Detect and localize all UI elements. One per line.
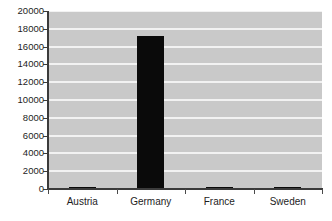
y-axis-tick-mark bbox=[43, 171, 48, 172]
y-axis-tick-label: 12000 bbox=[0, 77, 44, 87]
gridline bbox=[48, 170, 322, 172]
y-axis-tick-label: 8000 bbox=[0, 113, 44, 123]
y-axis-tick-mark bbox=[43, 100, 48, 101]
bar bbox=[137, 36, 164, 189]
x-axis-tick-mark bbox=[117, 189, 118, 194]
x-axis-tick-mark bbox=[254, 189, 255, 194]
gridline bbox=[48, 99, 322, 101]
x-axis-tick-mark bbox=[322, 189, 323, 194]
y-axis-tick-label: 18000 bbox=[0, 24, 44, 34]
x-axis-category-label: Austria bbox=[48, 196, 117, 207]
chart-title bbox=[0, 0, 332, 3]
x-axis-tick-mark bbox=[48, 189, 49, 194]
y-axis-tick-mark bbox=[43, 82, 48, 83]
y-axis-tick-mark bbox=[43, 136, 48, 137]
y-axis-tick-label: 16000 bbox=[0, 42, 44, 52]
y-axis-tick-label: 0 bbox=[0, 184, 44, 194]
gridline bbox=[48, 28, 322, 30]
y-axis-tick-mark bbox=[43, 153, 48, 154]
gridline bbox=[48, 63, 322, 65]
gridline bbox=[48, 152, 322, 154]
y-axis-tick-mark bbox=[43, 118, 48, 119]
x-axis-category-label: France bbox=[185, 196, 254, 207]
y-axis-tick-label: 6000 bbox=[0, 131, 44, 141]
x-axis-category-label: Germany bbox=[117, 196, 186, 207]
y-axis-tick-mark bbox=[43, 11, 48, 12]
bar-chart-figure: 0200040006000800010000120001400016000180… bbox=[0, 0, 332, 221]
y-axis-tick-label: 10000 bbox=[0, 95, 44, 105]
gridline bbox=[48, 117, 322, 119]
y-axis-tick-mark bbox=[43, 64, 48, 65]
x-axis-category-label: Sweden bbox=[254, 196, 323, 207]
gridline bbox=[48, 81, 322, 83]
y-axis-tick-mark bbox=[43, 29, 48, 30]
y-axis-tick-label: 20000 bbox=[0, 6, 44, 16]
x-axis-tick-mark bbox=[185, 189, 186, 194]
plot-area bbox=[48, 11, 322, 189]
gridline bbox=[48, 46, 322, 48]
gridline bbox=[48, 11, 322, 12]
y-axis-tick-label: 4000 bbox=[0, 148, 44, 158]
y-axis-tick-label: 2000 bbox=[0, 166, 44, 176]
y-axis-tick-mark bbox=[43, 47, 48, 48]
y-axis-tick-label: 14000 bbox=[0, 59, 44, 69]
gridline bbox=[48, 135, 322, 137]
